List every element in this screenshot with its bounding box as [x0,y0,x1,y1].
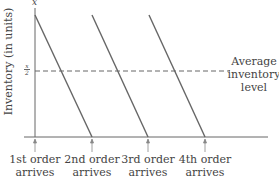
fraction-denominator: 2 [25,69,29,76]
depletion-line-2 [92,15,148,137]
fraction-numerator: x [25,62,28,69]
order-label-1: 1st order arrives [5,153,65,179]
order-label-3: 3rd order arrives [118,153,178,179]
order-arrows [34,139,207,152]
average-inventory-label: Average inventory level [226,55,279,94]
depletion-line-3 [149,15,205,137]
depletion-line-1 [35,15,92,137]
y-axis-mid-fraction: x 2 [23,63,31,76]
order-label-2: 2nd order arrives [62,153,122,179]
y-axis-label: Inventory (in units) [2,2,15,122]
y-axis-max-label: x [32,0,37,7]
order-label-4: 4th order arrives [175,153,235,179]
